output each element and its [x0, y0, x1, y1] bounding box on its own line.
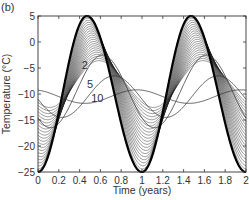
shallow-curve	[38, 16, 246, 172]
shallow-curve	[38, 20, 246, 166]
y-axis-title: Temperature (°C)	[0, 54, 12, 135]
curve-labels: 2510	[82, 59, 104, 104]
x-tick-label: 0.6	[93, 175, 107, 186]
curve-label: 5	[87, 78, 93, 90]
x-tick-label: 1.4	[177, 175, 191, 186]
x-tick-label: 1.6	[197, 175, 211, 186]
temperature-chart: 00.20.40.60.811.21.41.61.8250−5−10−15−20…	[0, 0, 249, 200]
y-tick-label: 5	[29, 11, 35, 22]
y-tick-label: 0	[29, 37, 35, 48]
y-tick-label: −5	[24, 63, 36, 74]
x-tick-label: 0.4	[73, 175, 87, 186]
x-tick-label: 1.8	[218, 175, 232, 186]
y-tick-label: −10	[18, 89, 35, 100]
y-tick-label: −20	[18, 141, 35, 152]
curve-label: 10	[91, 92, 103, 104]
x-tick-label: 2	[243, 175, 249, 186]
y-tick-label: −15	[18, 115, 35, 126]
shallow-curve	[38, 18, 246, 169]
x-axis-title: Time (years)	[113, 184, 172, 196]
curve-group	[38, 16, 246, 172]
x-tick-label: 0.2	[52, 175, 66, 186]
plot-frame	[38, 16, 246, 172]
surface-curve	[38, 16, 246, 172]
curve-label: 2	[82, 59, 88, 71]
x-tick-label: 0	[35, 175, 41, 186]
y-tick-label: −25	[18, 167, 35, 178]
